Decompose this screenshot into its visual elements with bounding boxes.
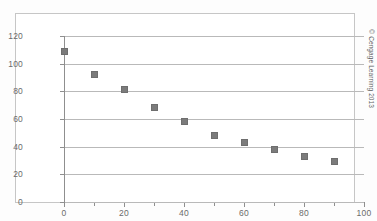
x-tick-mark	[304, 203, 305, 207]
x-tick-mark	[64, 203, 65, 207]
y-tick-label: 60	[0, 114, 23, 124]
y-tick-mark	[60, 64, 65, 65]
gridline	[64, 174, 364, 175]
x-tick-label: 100	[349, 208, 377, 218]
x-minor-tick-mark	[154, 203, 155, 206]
y-tick-mark	[60, 147, 65, 148]
y-tick-mark	[60, 36, 65, 37]
y-tick-label: 40	[0, 142, 23, 152]
figure-caption: Figure 11-11	[16, 219, 93, 221]
y-tick-label: 120	[0, 31, 23, 41]
x-tick-mark	[364, 203, 365, 207]
gridline	[64, 64, 364, 65]
data-point	[181, 118, 188, 125]
x-tick-mark	[184, 203, 185, 207]
gridline	[64, 36, 364, 37]
x-tick-mark	[244, 203, 245, 207]
y-tick-mark	[60, 174, 65, 175]
gridline	[64, 91, 364, 92]
gridline	[64, 119, 364, 120]
x-tick-label: 40	[169, 208, 199, 218]
x-tick-label: 0	[49, 208, 79, 218]
data-point	[91, 71, 98, 78]
data-point	[151, 104, 158, 111]
data-point	[301, 153, 308, 160]
x-minor-tick-mark	[274, 203, 275, 206]
x-minor-tick-mark	[334, 203, 335, 206]
data-point	[211, 132, 218, 139]
x-tick-label: 20	[109, 208, 139, 218]
y-tick-mark	[60, 119, 65, 120]
y-tick-label: 20	[0, 169, 23, 179]
data-point	[61, 48, 68, 55]
y-tick-label: 100	[0, 59, 23, 69]
x-tick-label: 60	[229, 208, 259, 218]
data-point	[331, 158, 338, 165]
scanned-page: 020406080100120 020406080100 © Cengage L…	[0, 0, 377, 221]
x-tick-mark	[124, 203, 125, 207]
gridline	[64, 147, 364, 148]
chart-frame: 020406080100120 020406080100	[15, 13, 355, 203]
y-tick-mark	[60, 91, 65, 92]
y-tick-label: 80	[0, 86, 23, 96]
x-minor-tick-mark	[94, 203, 95, 206]
data-point	[241, 139, 248, 146]
copyright-notice: © Cengage Learning 2013	[368, 29, 375, 108]
y-tick-label: 0	[0, 197, 23, 207]
data-point	[121, 86, 128, 93]
x-tick-label: 80	[289, 208, 319, 218]
data-point	[271, 146, 278, 153]
x-minor-tick-mark	[214, 203, 215, 206]
